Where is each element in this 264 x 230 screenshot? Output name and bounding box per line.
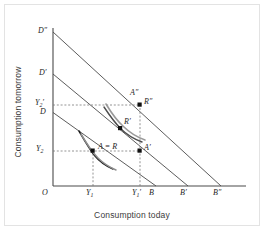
x-tick-label-origin: O <box>42 188 48 197</box>
y-tick-label-D-prime: D′ <box>39 68 47 77</box>
x-tick-label-Y1-prime: Y1′ <box>132 188 141 198</box>
point-label-A-equals-R: A = R <box>98 142 117 151</box>
economics-figure: D″ D′ Y2′ D Y2 O Y1 Y1′ B B′ B″ A″ R″ R′… <box>0 0 264 230</box>
x-tick-label-Y1: Y1 <box>86 188 93 198</box>
point-label-A-double-prime: A″ <box>130 88 138 97</box>
point-A-double-prime-R-double-prime <box>138 103 142 107</box>
point-R-prime <box>118 126 122 130</box>
x-axis-title: Consumption today <box>0 210 264 220</box>
point-label-R-prime: R′ <box>124 117 131 126</box>
point-A-prime <box>138 149 142 153</box>
point-A-equals-R <box>91 149 95 153</box>
y-tick-label-Y2: Y2 <box>36 144 43 154</box>
x-tick-label-B-prime: B′ <box>180 188 187 197</box>
y-tick-label-D: D <box>40 107 46 116</box>
budget-line-Ddprime-Bdprime <box>53 32 221 186</box>
y-tick-label-D-double-prime: D″ <box>38 26 47 35</box>
budget-lines-group <box>53 32 221 186</box>
point-label-A-prime: A′ <box>144 143 151 152</box>
indifference-curve-lower-grey <box>81 134 116 170</box>
indifference-curves-group <box>79 104 145 170</box>
axes-group <box>53 28 246 186</box>
x-tick-label-B: B <box>149 188 154 197</box>
x-tick-label-B-double-prime: B″ <box>213 188 221 197</box>
y-axis-title: Consumption tomorrow <box>13 32 23 192</box>
point-label-R-double-prime: R″ <box>144 97 152 106</box>
